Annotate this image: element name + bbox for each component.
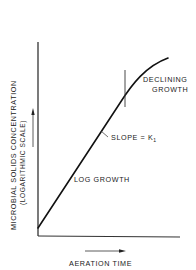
growth-curve-diagram: MICROBIAL SOLIDS CONCENTRATION (LOGARITH… [0, 0, 196, 270]
slope-label-text: SLOPE = K [111, 133, 153, 142]
declining-growth-label-line1: DECLINING [143, 75, 188, 84]
slope-label: SLOPE = K1 [111, 133, 157, 143]
y-axis-label: MICROBIAL SOLIDS CONCENTRATION [9, 80, 18, 230]
x-axis [38, 236, 180, 237]
declining-growth-label-line2: GROWTH [152, 85, 188, 94]
slope-leader-line [101, 131, 108, 137]
x-axis-label: AERATION TIME [69, 259, 132, 268]
log-growth-label: LOG GROWTH [74, 175, 130, 184]
x-direction-arrow-icon [85, 249, 126, 252]
y-direction-arrow-icon [31, 108, 34, 147]
y-axis-sublabel: (LOGARITHMIC SCALE) [19, 120, 27, 205]
slope-label-subscript: 1 [153, 137, 156, 143]
